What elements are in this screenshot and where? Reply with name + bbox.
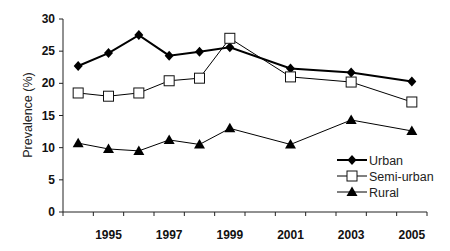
legend-item-semi-urban: Semi-urban: [337, 170, 434, 184]
square-marker-icon: [195, 73, 205, 83]
series-line: [78, 35, 412, 81]
x-tick-label: 2003: [338, 228, 365, 242]
triangle-marker-icon: [164, 134, 175, 144]
y-tick-label: 5: [48, 173, 55, 187]
y-tick-label: 0: [48, 205, 55, 219]
square-marker-icon: [134, 88, 144, 98]
triangle-marker-icon: [73, 138, 84, 148]
square-marker-icon: [225, 33, 235, 43]
triangle-marker-icon: [133, 145, 144, 155]
triangle-marker-icon: [346, 115, 357, 125]
series-urban: [74, 30, 417, 86]
diamond-marker-icon: [104, 48, 113, 58]
series-rural: [73, 115, 418, 155]
diamond-marker-icon: [165, 51, 174, 61]
y-tick-label: 20: [42, 76, 56, 90]
x-tick-label: 1999: [216, 228, 243, 242]
square-marker-icon: [286, 72, 296, 82]
triangle-marker-icon: [224, 123, 235, 133]
y-axis-title: Prevalence (%): [21, 72, 35, 157]
line-chart: 051015202530199519971999200120032005 Urb…: [0, 0, 450, 251]
x-tick-label: 2001: [277, 228, 304, 242]
diamond-marker-icon: [225, 42, 234, 52]
y-tick-label: 15: [42, 109, 56, 123]
axes: 051015202530199519971999200120032005: [42, 12, 427, 242]
legend-label: Urban: [369, 154, 403, 168]
triangle-marker-icon: [347, 187, 358, 197]
series-line: [78, 120, 412, 151]
diamond-marker-icon: [74, 61, 83, 71]
legend-item-rural: Rural: [337, 186, 399, 200]
series-line: [78, 38, 412, 102]
square-marker-icon: [347, 171, 357, 181]
legend: UrbanSemi-urbanRural: [337, 154, 434, 200]
series-group: [73, 30, 418, 155]
square-marker-icon: [164, 76, 174, 86]
x-tick-label: 1997: [156, 228, 183, 242]
legend-item-urban: Urban: [337, 154, 403, 168]
y-tick-label: 25: [42, 44, 56, 58]
y-tick-label: 10: [42, 141, 56, 155]
square-marker-icon: [104, 91, 114, 101]
diamond-marker-icon: [134, 30, 143, 40]
diamond-marker-icon: [347, 67, 356, 77]
square-marker-icon: [73, 88, 83, 98]
x-tick-label: 1995: [95, 228, 122, 242]
diamond-marker-icon: [195, 47, 204, 57]
y-tick-label: 30: [42, 12, 56, 26]
diamond-marker-icon: [348, 155, 357, 165]
square-marker-icon: [346, 77, 356, 87]
legend-label: Semi-urban: [369, 170, 434, 184]
legend-label: Rural: [369, 186, 399, 200]
diamond-marker-icon: [407, 76, 416, 86]
x-tick-label: 2005: [398, 228, 425, 242]
square-marker-icon: [407, 97, 417, 107]
